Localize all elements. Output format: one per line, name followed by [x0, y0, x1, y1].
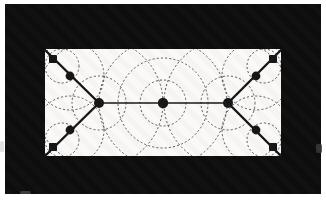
terminal-node	[269, 143, 277, 151]
terminal-node	[269, 55, 277, 63]
terminal-node	[49, 55, 57, 63]
scan-artifact	[0, 141, 4, 152]
scan-artifact	[316, 144, 322, 153]
junction-node	[252, 72, 261, 81]
scan-artifact	[20, 191, 31, 194]
junction-node	[66, 126, 75, 135]
steiner-tree-figure	[0, 0, 326, 201]
junction-node	[158, 98, 168, 108]
junction-node	[66, 72, 75, 81]
scanned-page	[0, 0, 326, 201]
junction-node	[252, 126, 261, 135]
junction-node	[223, 98, 233, 108]
terminal-node	[49, 143, 57, 151]
junction-node	[94, 98, 104, 108]
